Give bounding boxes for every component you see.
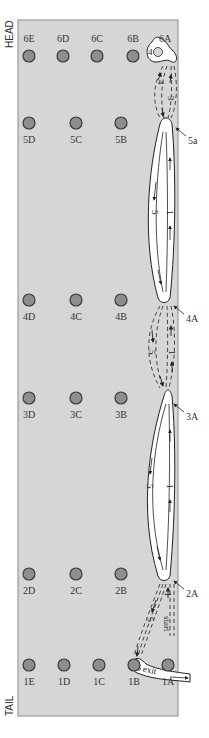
peg-circle-icon — [115, 294, 127, 306]
peg-label: 3C — [70, 409, 82, 420]
peg-label: 2C — [70, 585, 82, 596]
peg-label: 1A — [162, 676, 175, 687]
annotation-label: 2A — [186, 588, 199, 599]
peg-6a: 6A — [159, 33, 172, 44]
peg-label: 1E — [23, 676, 34, 687]
peg-circle-icon — [70, 294, 82, 306]
path-number-1: 1 — [165, 484, 175, 489]
peg-circle-icon — [23, 392, 35, 404]
peg-circle-icon — [91, 50, 103, 62]
peg-circle-icon — [58, 659, 70, 671]
start-label: start — [162, 616, 172, 632]
peg-circle-icon — [23, 659, 35, 671]
chambered-course-diagram: HEAD TAIL 4 3 4 5 1 5 1 — [0, 0, 209, 738]
peg-label: 2D — [23, 585, 35, 596]
peg-label: 5C — [70, 134, 82, 145]
annotation-5a: 5a — [176, 128, 198, 146]
peg-circle-icon — [70, 568, 82, 580]
peg-label: 3B — [115, 409, 127, 420]
peg-label: 6C — [91, 33, 103, 44]
peg-label: 4D — [23, 311, 35, 322]
peg-circle-icon — [128, 659, 140, 671]
peg-circle-icon — [70, 392, 82, 404]
peg-label: 5B — [115, 134, 127, 145]
peg-circle-icon — [93, 659, 105, 671]
peg-label: 6E — [23, 33, 34, 44]
peg-circle-icon — [57, 50, 69, 62]
peg-circle-icon — [23, 50, 35, 62]
peg-label: 4B — [115, 311, 127, 322]
path-number-1: 1 — [167, 350, 177, 355]
path-number-1: 1 — [165, 210, 175, 215]
peg-label: 6A — [159, 33, 172, 44]
peg-circle-icon — [70, 117, 82, 129]
peg-label: 1D — [58, 676, 70, 687]
peg-circle-icon — [115, 392, 127, 404]
peg-label: 2B — [115, 585, 127, 596]
tail-label: TAIL — [4, 695, 15, 716]
peg-circle-icon — [23, 294, 35, 306]
peg-label: 1C — [93, 676, 105, 687]
path-number-5: 5 — [147, 350, 157, 355]
peg-circle-icon — [115, 117, 127, 129]
peg-circle-icon — [23, 117, 35, 129]
path-number-4: 4 — [156, 80, 166, 85]
head-label: HEAD — [4, 20, 15, 48]
peg-label: 4C — [70, 311, 82, 322]
peg-circle-icon — [127, 50, 139, 62]
path-number-5: 5 — [150, 210, 160, 215]
path-number-5: 5 — [145, 484, 155, 489]
peg-label: 6D — [57, 33, 69, 44]
course-panel — [18, 20, 178, 716]
peg-circle-icon — [115, 568, 127, 580]
peg-label: 6B — [127, 33, 139, 44]
annotation-label: 4A — [186, 313, 199, 324]
path-number-1: 1 — [163, 592, 173, 597]
path-number-3: 3 — [166, 96, 176, 101]
peg-label: 1B — [128, 676, 140, 687]
peg-circle-icon — [162, 659, 174, 671]
peg-label: 3D — [23, 409, 35, 420]
path-number-4: 4 — [148, 47, 153, 57]
annotation-label: 3A — [186, 411, 199, 422]
peg-label: 5D — [23, 134, 35, 145]
peg-circle-icon — [23, 568, 35, 580]
annotation-label: 5a — [188, 135, 198, 146]
